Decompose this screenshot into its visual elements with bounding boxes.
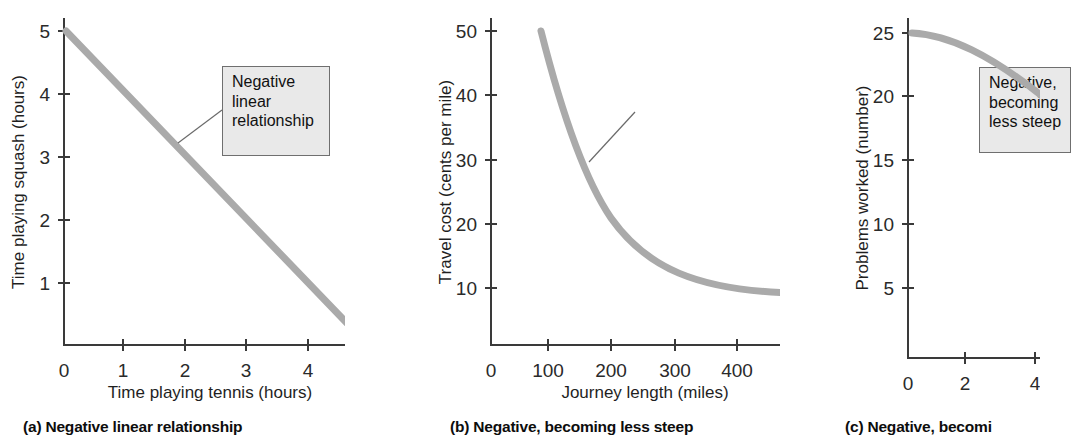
panel-b-caption: (b) Negative, becoming less steep (450, 418, 693, 436)
panel-b-xtick-label-100: 100 (532, 360, 564, 381)
panel-a-yaxis-title: Time playing squash (hours) (9, 75, 28, 289)
panel-c-line-series (912, 33, 1040, 96)
panel-c-ytick-label-20: 20 (873, 86, 894, 107)
panel-b-axes (491, 18, 780, 345)
panel-c-ytick-label-15: 15 (873, 150, 894, 171)
panel-a-xtick-label-2: 2 (180, 360, 191, 381)
panel-a-ytick-label-3: 3 (39, 147, 50, 168)
panel-a-caption: (a) Negative linear relationship (23, 418, 242, 436)
panel-b-plot: 50 40 30 20 10 0 100 200 300 400 500 Jou… (345, 0, 780, 434)
panel-a-xtick-label-4: 4 (303, 360, 314, 381)
panel-b-xtick-label-200: 200 (595, 360, 627, 381)
panel-b-ytick-label-10: 10 (456, 278, 477, 299)
panel-a-leader-line (178, 110, 222, 143)
panel-c-axes (908, 18, 1040, 358)
panel-a-xtick-label-1: 1 (118, 360, 129, 381)
panel-b-ytick-label-40: 40 (456, 85, 477, 106)
panel-c: 25 20 15 10 5 0 2 4 Problems worked (num… (780, 0, 1040, 434)
panel-a-callout: Negative linear relationship (222, 66, 330, 156)
panel-b-leader-line (589, 112, 635, 162)
panel-c-plot: 25 20 15 10 5 0 2 4 Problems worked (num… (780, 0, 1040, 434)
panel-b-xtick-label-0: 0 (486, 360, 497, 381)
panel-c-xtick-label-0: 0 (903, 373, 914, 394)
panel-a-xaxis-title: Time playing tennis (hours) (108, 383, 312, 402)
panel-a-ytick-label-2: 2 (39, 210, 50, 231)
panel-a-ytick-label-4: 4 (39, 84, 50, 105)
panel-b-ytick-label-30: 30 (456, 150, 477, 171)
panel-c-ytick-label-25: 25 (873, 23, 894, 44)
panel-b-yaxis-title: Travel cost (cents per mile) (436, 80, 455, 284)
panel-a-xtick-label-3: 3 (241, 360, 252, 381)
panel-a: 5 4 3 2 1 0 1 2 3 4 5 Time playing tenni… (0, 0, 345, 434)
panel-b-xtick-label-400: 400 (721, 360, 753, 381)
panel-c-xtick-label-2: 2 (960, 373, 971, 394)
panel-b-xaxis-title: Journey length (miles) (561, 383, 728, 402)
panel-b-line-series (541, 31, 780, 293)
panel-c-ytick-label-5: 5 (883, 278, 894, 299)
panel-c-ytick-label-10: 10 (873, 214, 894, 235)
panel-c-caption: (c) Negative, becomi (845, 418, 992, 436)
panel-b-ytick-label-20: 20 (456, 214, 477, 235)
panel-b: 50 40 30 20 10 0 100 200 300 400 500 Jou… (345, 0, 780, 434)
panel-c-yaxis-title: Problems worked (number) (853, 85, 872, 290)
panel-b-ytick-label-50: 50 (456, 21, 477, 42)
panel-a-ytick-label-1: 1 (39, 273, 50, 294)
panel-a-ytick-label-5: 5 (39, 21, 50, 42)
panel-b-xtick-label-300: 300 (659, 360, 691, 381)
panel-c-xtick-label-4: 4 (1030, 373, 1040, 394)
panel-a-xtick-label-0: 0 (59, 360, 70, 381)
